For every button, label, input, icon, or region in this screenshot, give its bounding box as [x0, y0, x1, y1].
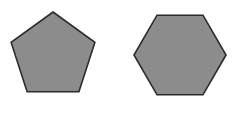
shapes-canvas	[0, 0, 242, 115]
shapes-svg	[0, 0, 242, 115]
